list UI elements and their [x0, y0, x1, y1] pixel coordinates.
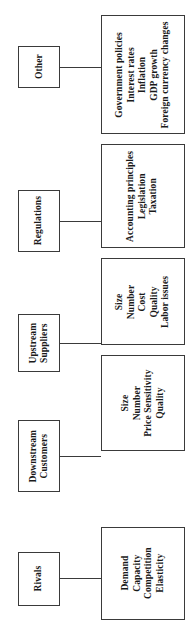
content-item: Quality [149, 286, 161, 317]
content-box-upstream-suppliers[interactable]: SizeNumberCostQualityLabor issues [101, 258, 185, 345]
content-item: Foreign currency changes [160, 21, 172, 128]
label-line: Suppliers [39, 323, 50, 364]
content-item: Number [131, 386, 143, 420]
connector-line-upstream-suppliers [60, 343, 101, 344]
label-line: Customers [39, 430, 50, 483]
content-item: Capacity [131, 555, 143, 592]
label-text-upstream-suppliers: UpstreamSuppliers [28, 323, 50, 364]
label-text-regulations: Regulations [33, 196, 44, 245]
label-line: Rivals [33, 566, 44, 592]
content-box-regulations[interactable]: Accounting principlesLegislationTaxation [101, 144, 185, 248]
label-line: Other [33, 55, 44, 80]
label-box-downstream-customers[interactable]: DownstreamCustomers [18, 420, 60, 492]
content-item: Competition [143, 548, 155, 600]
content-item: Size [114, 293, 126, 310]
content-item: Interest rates [126, 47, 138, 102]
content-item: Size [120, 395, 132, 412]
label-box-upstream-suppliers[interactable]: UpstreamSuppliers [18, 314, 60, 372]
label-text-rivals: Rivals [33, 566, 44, 592]
content-item: Inflation [137, 56, 149, 92]
content-item: Price Sensitivity [143, 369, 155, 436]
content-list-other: Government policiesInterest ratesInflati… [114, 21, 172, 128]
label-box-other[interactable]: Other [18, 46, 60, 88]
content-box-rivals[interactable]: DemandCapacityCompetitionElasticity [101, 527, 185, 620]
factors-diagram: OtherGovernment policiesInterest ratesIn… [0, 0, 195, 644]
connector-line-rivals [60, 578, 101, 579]
content-item: Quality [155, 387, 167, 418]
connector-line-other [60, 67, 101, 68]
content-list-upstream-suppliers: SizeNumberCostQualityLabor issues [114, 276, 172, 328]
label-box-regulations[interactable]: Regulations [18, 190, 60, 252]
content-item: Legislation [137, 173, 149, 219]
content-box-downstream-customers[interactable]: SizeNumberPrice SensitivityQuality [101, 355, 185, 451]
content-item: Demand [120, 556, 132, 591]
label-line: Upstream [28, 323, 39, 364]
label-box-rivals[interactable]: Rivals [18, 552, 60, 606]
content-item: Government policies [114, 32, 126, 118]
connector-line-regulations [60, 221, 101, 222]
label-text-other: Other [33, 55, 44, 80]
content-list-rivals: DemandCapacityCompetitionElasticity [120, 548, 166, 600]
content-item: Taxation [149, 178, 161, 214]
content-item: Cost [137, 292, 149, 311]
label-line: Regulations [33, 196, 44, 245]
content-item: Accounting principles [126, 150, 138, 241]
content-item: Number [126, 284, 138, 318]
connector-line-downstream-customers [60, 456, 101, 457]
content-box-other[interactable]: Government policiesInterest ratesInflati… [101, 15, 185, 134]
label-text-downstream-customers: DownstreamCustomers [28, 430, 50, 483]
content-list-downstream-customers: SizeNumberPrice SensitivityQuality [120, 369, 166, 436]
content-item: Labor issues [160, 276, 172, 328]
label-line: Downstream [28, 430, 39, 483]
content-item: GDP growth [149, 49, 161, 101]
content-list-regulations: Accounting principlesLegislationTaxation [126, 150, 161, 241]
content-item: Elasticity [155, 554, 167, 593]
